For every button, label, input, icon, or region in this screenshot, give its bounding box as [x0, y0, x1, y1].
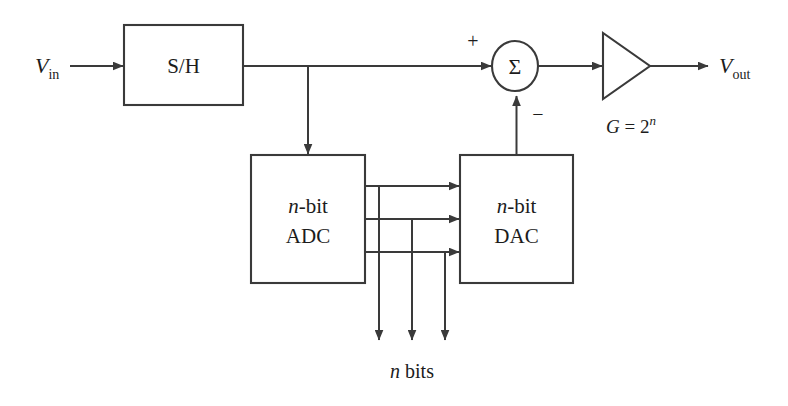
gain-equals-text: = 2	[620, 116, 650, 137]
summing-junction[interactable]: Σ	[492, 41, 538, 91]
adc-label-line2: ADC	[286, 224, 330, 248]
adc-n-italic: n	[288, 194, 299, 218]
sample-hold-label: S/H	[167, 54, 200, 78]
dac-label-line1: n-bit	[497, 194, 537, 218]
sigma-symbol: Σ	[509, 54, 522, 79]
minus-sign-label: −	[532, 103, 543, 125]
gain-label: G = 2n	[606, 113, 656, 137]
v-out-subscript: out	[732, 67, 750, 82]
adc-bit-text: -bit	[299, 194, 328, 218]
sample-hold-block[interactable]: S/H	[124, 25, 243, 105]
n-bits-text: bits	[400, 360, 434, 382]
dac-box[interactable]	[460, 155, 573, 283]
adc-label-line1: n-bit	[288, 194, 328, 218]
block-diagram-svg: S/H Vin n-bit ADC n-bit DAC	[0, 0, 788, 406]
diagram-background	[0, 0, 788, 406]
v-in-subscript: in	[48, 67, 59, 82]
adc-box[interactable]	[251, 155, 365, 283]
plus-sign-label: +	[467, 30, 478, 52]
n-bits-label: n bits	[390, 360, 434, 382]
dac-block[interactable]: n-bit DAC	[460, 155, 573, 283]
adc-block[interactable]: n-bit ADC	[251, 155, 365, 283]
block-diagram-canvas: S/H Vin n-bit ADC n-bit DAC	[0, 0, 788, 406]
n-bits-n-italic: n	[390, 360, 400, 382]
gain-g-symbol: G	[606, 116, 620, 137]
dac-bit-text: -bit	[507, 194, 536, 218]
dac-n-italic: n	[497, 194, 508, 218]
gain-exponent: n	[649, 113, 656, 128]
dac-label-line2: DAC	[494, 224, 538, 248]
